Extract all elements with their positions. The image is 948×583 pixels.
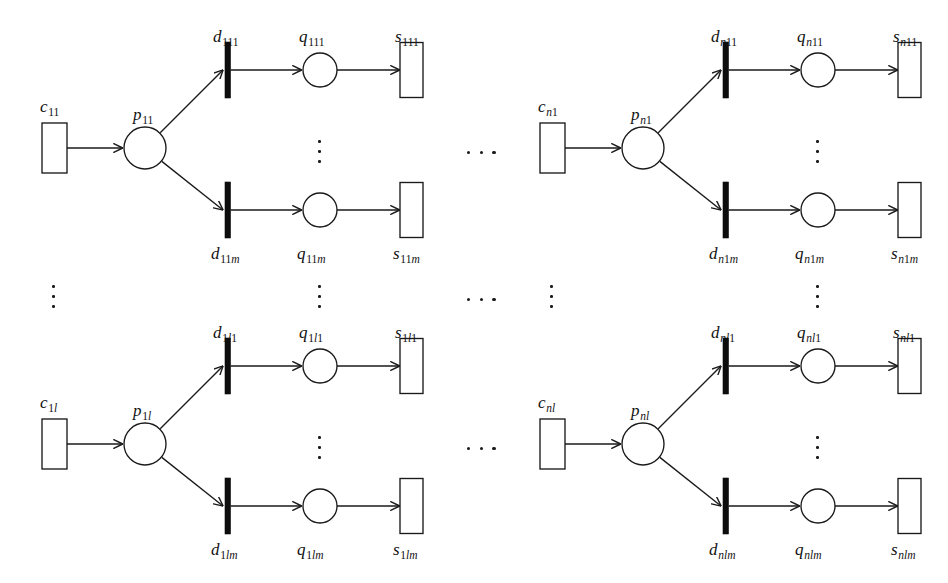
label-q-nl1: qnl1: [797, 324, 821, 344]
label-s-n1m: sn1m: [891, 245, 918, 265]
label-d-1lm: d1lm: [211, 541, 237, 561]
label-s-1lm: s1lm: [393, 541, 418, 561]
place-circle-q: [303, 53, 337, 87]
transition-bar-d: [723, 182, 729, 238]
hdots-bottom-row: [467, 437, 496, 453]
label-d-n11: dn11: [711, 28, 737, 48]
transition-bar-d: [225, 338, 231, 394]
arc-p-to-d: [160, 70, 223, 133]
arc-p-to-d: [658, 366, 721, 429]
sink-place-rect: [898, 43, 921, 98]
hdots-middle-row: [467, 288, 496, 304]
label-c-1l: c1l: [40, 394, 57, 414]
source-place-rect: [540, 123, 565, 173]
label-p-1l: p1l: [133, 402, 151, 422]
label-q-111: q111: [299, 28, 325, 48]
arc-p-to-d: [162, 457, 223, 506]
label-d-1l1: d1l1: [213, 324, 237, 344]
label-s-n11: sn11: [893, 28, 917, 48]
place-circle-q: [303, 349, 337, 383]
sink-place-rect: [898, 339, 921, 394]
source-place-rect: [42, 419, 67, 469]
label-s-nlm: snlm: [891, 541, 916, 561]
label-d-nlm: dnlm: [709, 541, 735, 561]
place-circle-q: [303, 193, 337, 227]
place-circle-q: [801, 53, 835, 87]
place-circle-q: [801, 489, 835, 523]
vdots-block-bottom-right: [816, 436, 819, 466]
arc-p-to-d: [160, 366, 223, 429]
sink-place-rect: [400, 43, 423, 98]
arc-p-to-d: [660, 457, 721, 506]
label-d-n1m: dn1m: [709, 245, 738, 265]
place-circle-p: [124, 423, 166, 465]
label-p-nl: pnl: [631, 402, 649, 422]
label-d-nl1: dnl1: [711, 324, 735, 344]
label-q-n11: qn11: [797, 28, 823, 48]
label-d-11m: d11m: [211, 245, 240, 265]
arc-p-to-d: [162, 161, 223, 210]
place-circle-q: [303, 489, 337, 523]
place-circle-p: [622, 127, 664, 169]
source-place-rect: [42, 123, 67, 173]
vdots-column-c-left: [52, 285, 55, 315]
source-place-rect: [540, 419, 565, 469]
vdots-block-bottom-left: [318, 436, 321, 466]
label-s-1l1: s1l1: [395, 324, 417, 344]
transition-bar-d: [723, 338, 729, 394]
transition-bar-d: [225, 478, 231, 534]
arc-p-to-d: [660, 161, 721, 210]
label-c-n1: cn1: [538, 98, 558, 118]
place-circle-q: [801, 349, 835, 383]
label-c-nl: cnl: [538, 394, 555, 414]
label-q-nlm: qnlm: [795, 541, 821, 561]
place-circle-p: [622, 423, 664, 465]
label-q-1l1: q1l1: [299, 324, 323, 344]
place-circle-q: [801, 193, 835, 227]
label-s-nl1: snl1: [893, 324, 915, 344]
label-q-11m: q11m: [297, 245, 326, 265]
vdots-block-top-right: [816, 140, 819, 170]
transition-bar-d: [225, 182, 231, 238]
vdots-block-top-left: [318, 140, 321, 170]
label-q-1lm: q1lm: [297, 541, 323, 561]
sink-place-rect: [898, 479, 921, 534]
label-p-n1: pn1: [631, 106, 652, 126]
transition-bar-d: [225, 42, 231, 98]
transition-bar-d: [723, 42, 729, 98]
transition-bar-d: [723, 478, 729, 534]
label-p-11: p11: [133, 106, 153, 126]
hdots-top-row: [467, 141, 496, 157]
label-d-111: d111: [213, 28, 239, 48]
label-c-11: c11: [40, 98, 59, 118]
label-q-n1m: qn1m: [795, 245, 824, 265]
label-s-111: s111: [395, 28, 419, 48]
sink-place-rect: [898, 183, 921, 238]
petri-net-diagram: c11 p11 d111 q111 s111 d11m q11m s11m cn…: [0, 0, 948, 583]
sink-place-rect: [400, 183, 423, 238]
vdots-column-q-right: [816, 285, 819, 315]
place-circle-p: [124, 127, 166, 169]
vdots-column-q-left: [318, 285, 321, 315]
label-s-11m: s11m: [393, 245, 420, 265]
sink-place-rect: [400, 479, 423, 534]
arc-p-to-d: [658, 70, 721, 133]
sink-place-rect: [400, 339, 423, 394]
vdots-column-c-right: [550, 285, 553, 315]
